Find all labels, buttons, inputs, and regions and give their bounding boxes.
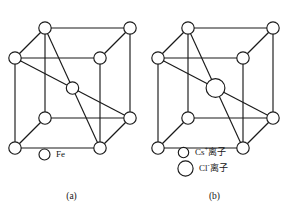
ion-front-top-left bbox=[152, 52, 164, 64]
atom-body-center bbox=[66, 82, 78, 94]
chloride-ion-icon bbox=[177, 160, 194, 177]
atom-back-bottom-right bbox=[124, 112, 136, 124]
atom-front-top-right bbox=[94, 52, 106, 64]
panel-a-fe-lattice: Fe (a) bbox=[0, 0, 143, 213]
atom-front-top-left bbox=[9, 52, 21, 64]
lattice-diagram-b bbox=[143, 0, 286, 213]
ion-back-top-right bbox=[267, 22, 279, 34]
lattice-diagram-a bbox=[0, 0, 143, 213]
ion-back-bottom-right bbox=[267, 112, 279, 124]
caption-a: (a) bbox=[0, 191, 143, 201]
ion-back-bottom-left bbox=[182, 112, 194, 124]
atom-back-top-right bbox=[124, 22, 136, 34]
ion-body-center-chloride bbox=[206, 79, 225, 98]
ion-back-top-left bbox=[182, 22, 194, 34]
legend-item-cesium: Cs+离子 bbox=[177, 146, 286, 159]
legend-chloride-symbol: Cl bbox=[199, 163, 208, 173]
legend-cesium-tail: 离子 bbox=[208, 147, 226, 157]
legend-cesium-symbol: Cs bbox=[195, 147, 205, 157]
legend-a: Fe bbox=[0, 148, 143, 161]
legend-label-chloride: Cl-离子 bbox=[199, 164, 228, 173]
fe-atom-icon bbox=[38, 148, 51, 161]
legend-item-chloride: Cl-离子 bbox=[177, 160, 286, 177]
legend-label-fe: Fe bbox=[56, 150, 65, 159]
caption-b: (b) bbox=[143, 191, 286, 201]
legend-item-fe: Fe bbox=[38, 148, 143, 161]
atom-back-bottom-left bbox=[39, 112, 51, 124]
figure-container: Fe (a) bbox=[0, 0, 286, 213]
legend-label-cesium: Cs+离子 bbox=[195, 148, 226, 157]
panel-b-cscl-lattice: Cs+离子 Cl-离子 (b) bbox=[143, 0, 286, 213]
cesium-ion-icon bbox=[177, 146, 190, 159]
legend-b: Cs+离子 Cl-离子 bbox=[143, 146, 286, 178]
ion-front-top-right bbox=[237, 52, 249, 64]
legend-chloride-tail: 离子 bbox=[210, 163, 228, 173]
atom-back-top-left bbox=[39, 22, 51, 34]
